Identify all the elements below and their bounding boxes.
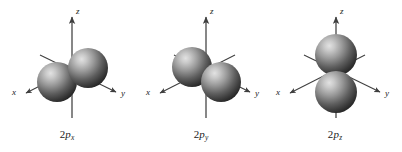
orbital-lobe-positive	[315, 34, 357, 76]
orbital-diagram-2pz: z x y	[268, 0, 402, 132]
orbital-caption-2px: 2px	[0, 128, 134, 142]
axis-label-y: y	[254, 88, 259, 98]
orbital-panel-2pz: z x y 2pz	[268, 0, 402, 152]
orbital-lobe-positive	[68, 48, 108, 88]
axis-label-z: z	[75, 6, 80, 16]
caption-subscript: y	[205, 133, 208, 142]
orbital-diagram-2px: z x y	[0, 0, 134, 132]
axis-label-x: x	[11, 87, 16, 97]
axis-label-y: y	[120, 88, 125, 98]
orbital-lobe-negative	[315, 71, 357, 113]
orbital-panel-2py: z x y 2py	[134, 0, 268, 152]
p-orbital-figure: z x y 2px	[0, 0, 402, 152]
orbital-panel-2px: z x y 2px	[0, 0, 134, 152]
orbital-lobes-2px	[37, 48, 108, 102]
orbital-diagram-2py: z x y	[134, 0, 268, 132]
axis-label-x: x	[275, 87, 280, 97]
orbital-caption-2pz: 2pz	[268, 128, 402, 142]
axis-label-z: z	[209, 6, 214, 16]
orbital-lobes-2py	[172, 47, 241, 102]
orbital-caption-2py: 2py	[134, 128, 268, 142]
caption-subscript: z	[339, 133, 342, 142]
caption-subscript: x	[71, 133, 74, 142]
orbital-lobes-2pz	[315, 34, 357, 113]
orbital-lobe-positive	[201, 62, 241, 102]
axis-label-x: x	[145, 87, 150, 97]
axis-label-y: y	[384, 88, 389, 98]
axis-label-z: z	[339, 6, 344, 16]
